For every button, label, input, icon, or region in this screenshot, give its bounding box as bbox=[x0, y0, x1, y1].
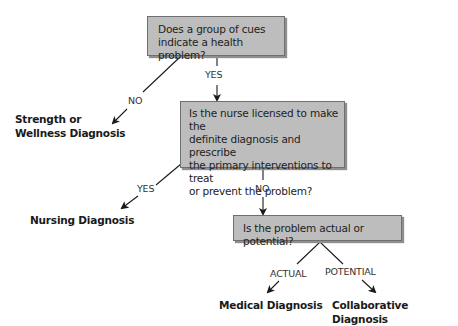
edge-label-q3-potential: POTENTIAL bbox=[325, 266, 376, 277]
outcome-line: Strength or bbox=[15, 112, 125, 126]
edge-label-q3-actual: ACTUAL bbox=[270, 268, 306, 279]
edge-q3-actual-arrow bbox=[268, 281, 279, 292]
edge-q1-no-line bbox=[143, 57, 180, 92]
question-line: Is the nurse licensed to make the bbox=[189, 107, 344, 133]
outcome-nursing-diagnosis: Nursing Diagnosis bbox=[30, 213, 134, 227]
question-line: indicate a health problem? bbox=[158, 36, 284, 62]
question-line: Does a group of cues bbox=[158, 23, 284, 36]
question-box-nurse-licensed: Is the nurse licensed to make the defini… bbox=[180, 101, 345, 168]
outcome-collaborative-diagnosis: Collaborative Diagnosis bbox=[332, 298, 458, 326]
edge-label-q1-yes: YES bbox=[205, 69, 222, 80]
edge-label-q2-yes: YES bbox=[137, 183, 154, 194]
edge-q2-yes-arrow bbox=[122, 196, 138, 208]
outcome-strength-wellness-diagnosis: Strength or Wellness Diagnosis bbox=[15, 112, 125, 140]
question-box-actual-or-potential: Is the problem actual or potential? bbox=[233, 215, 402, 241]
question-line: the primary interventions to treat bbox=[189, 159, 344, 185]
question-box-health-problem: Does a group of cues indicate a health p… bbox=[147, 16, 285, 56]
edge-q3-potential-arrow bbox=[362, 280, 375, 292]
edge-q2-yes-line bbox=[156, 164, 181, 185]
edge-label-q1-no: NO bbox=[128, 95, 142, 106]
question-line: Is the problem actual or potential? bbox=[243, 222, 401, 248]
edge-label-q2-no: NO bbox=[255, 183, 269, 194]
outcome-line: Wellness Diagnosis bbox=[15, 126, 125, 140]
outcome-medical-diagnosis: Medical Diagnosis bbox=[219, 298, 323, 312]
question-line: definite diagnosis and prescribe bbox=[189, 133, 344, 159]
